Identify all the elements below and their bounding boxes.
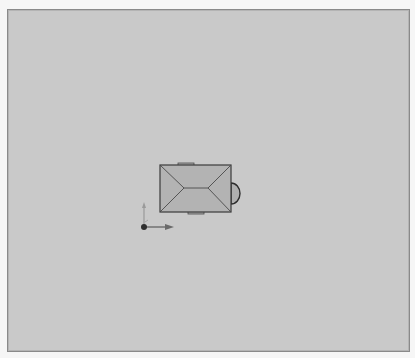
x-arrow-icon (165, 224, 174, 230)
origin-icon (141, 224, 147, 230)
y-arrow-icon (142, 202, 146, 208)
bay-window (231, 183, 240, 204)
building-model[interactable] (160, 163, 240, 214)
scene-canvas (0, 0, 415, 358)
roof-outline (160, 165, 231, 212)
z-tick-icon (145, 220, 148, 222)
